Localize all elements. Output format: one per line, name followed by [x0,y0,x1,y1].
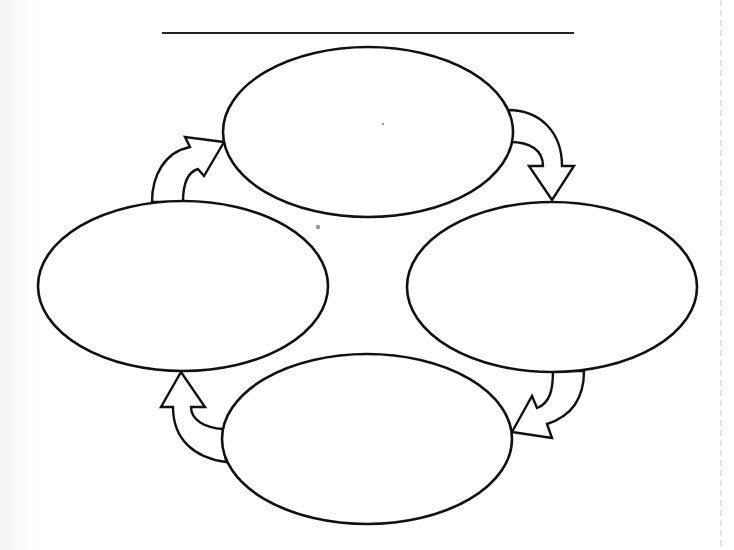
curved-arrow-bottom-to-left [161,372,226,462]
cycle-node-bottom [222,354,512,524]
curved-arrow-left-to-top [152,137,224,202]
worksheet-page [0,0,734,550]
scan-speck [316,225,320,229]
curved-arrow-top-to-right [508,110,574,200]
cycle-node-right [407,202,697,372]
cycle-node-top [223,47,513,217]
cycle-diagram [0,0,734,550]
scan-speck [382,123,384,125]
curved-arrow-right-to-bottom [512,371,584,438]
cycle-node-left [38,201,328,371]
